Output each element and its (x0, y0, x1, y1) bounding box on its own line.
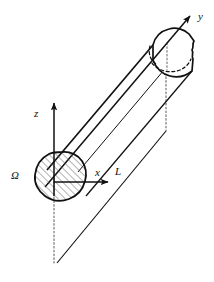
cross-section-label: Ω (11, 169, 19, 181)
z-axis-label: z (33, 107, 39, 119)
cylinder-lower-generator (86, 71, 192, 196)
length-label: L (114, 165, 121, 177)
y-axis-label: y (197, 10, 203, 22)
cylinder-diagram: y z x L Ω (0, 0, 214, 282)
cross-section-group (35, 152, 86, 201)
x-axis-label: x (94, 166, 100, 178)
far-end-cap-group (149, 28, 194, 77)
figure-container: y z x L Ω (0, 0, 214, 282)
cross-section-omega-shape (35, 152, 86, 201)
